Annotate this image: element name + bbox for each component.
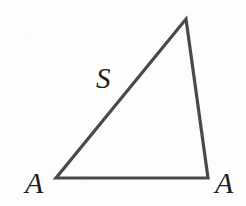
angle-label-right-a: A: [215, 168, 233, 198]
triangle-outline: [56, 19, 208, 178]
angle-label-left-a: A: [25, 168, 43, 198]
geometry-figure: A A S: [0, 0, 246, 206]
side-label-s: S: [96, 64, 111, 93]
